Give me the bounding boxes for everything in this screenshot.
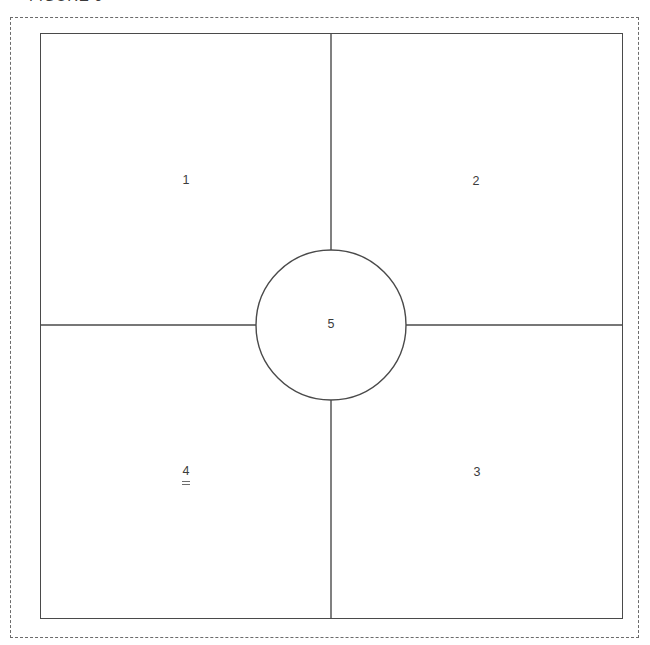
region-label-5: 5	[316, 317, 346, 331]
region-label-2: 2	[461, 174, 491, 188]
region-label-3: 3	[462, 465, 492, 479]
figure-stage: FIGURE 6 1 2 3 4 5	[0, 0, 650, 645]
underline-rule-upper	[182, 481, 190, 482]
underline-rule-lower	[182, 484, 190, 485]
region-label-1: 1	[171, 173, 201, 187]
region-label-4-underline-mark	[182, 481, 190, 486]
region-label-4: 4	[171, 464, 201, 478]
